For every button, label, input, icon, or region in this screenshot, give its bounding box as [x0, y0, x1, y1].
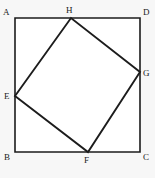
vertex-label-G: G: [143, 69, 150, 78]
vertex-label-H: H: [66, 6, 73, 15]
vertex-label-D: D: [143, 8, 150, 17]
vertex-label-B: B: [4, 153, 10, 162]
vertex-label-A: A: [3, 8, 10, 17]
diagram-canvas: [0, 0, 155, 178]
geometry-figure: A H D G E B F C: [0, 0, 155, 178]
vertex-label-C: C: [143, 153, 149, 162]
vertex-label-F: F: [84, 156, 89, 165]
vertex-label-E: E: [4, 92, 10, 101]
outer-square-ABCD: [15, 18, 140, 152]
